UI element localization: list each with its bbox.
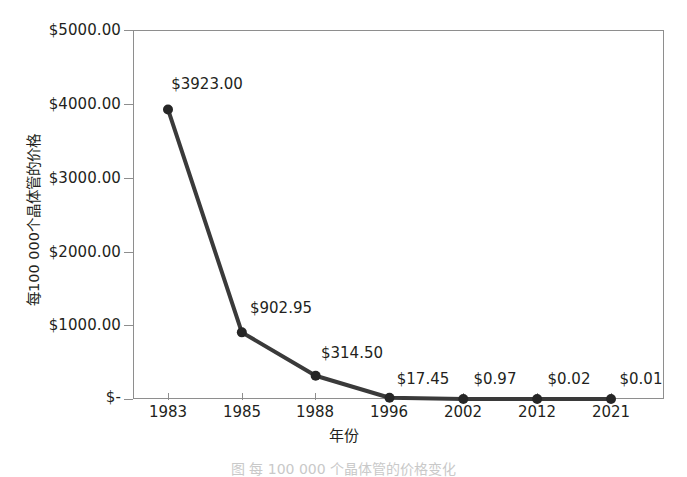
figure-caption: 图 每 100 000 个晶体管的价格变化 xyxy=(0,461,687,477)
data-point-marker xyxy=(163,104,173,114)
data-point-label: $3923.00 xyxy=(137,76,277,93)
data-point-label: $902.95 xyxy=(211,300,351,317)
data-point-marker xyxy=(458,394,468,404)
data-point-label: $0.01 xyxy=(571,371,687,388)
data-point-label: $314.50 xyxy=(282,345,422,362)
data-point-marker xyxy=(532,394,542,404)
data-point-marker xyxy=(385,393,395,403)
data-point-marker xyxy=(237,327,247,337)
data-point-marker xyxy=(606,394,616,404)
data-point-marker xyxy=(311,371,321,381)
